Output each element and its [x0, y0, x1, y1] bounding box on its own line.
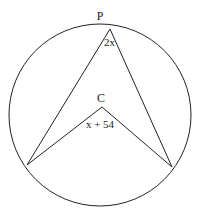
label-p: P — [97, 9, 104, 23]
angle-label-c: x + 54 — [86, 118, 115, 130]
radius-c-left — [27, 107, 102, 165]
angle-label-p: 2x — [104, 36, 116, 48]
label-c: C — [97, 91, 105, 105]
circle-diagram: P 2x C x + 54 — [0, 0, 201, 212]
circle — [9, 24, 191, 206]
radius-c-right — [102, 107, 172, 167]
